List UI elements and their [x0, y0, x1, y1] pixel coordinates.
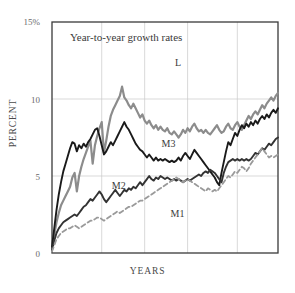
series-label-m1: M1	[171, 208, 185, 219]
series-label-l: L	[175, 57, 181, 68]
ytick-label-0: 0	[16, 249, 40, 259]
y-axis-label: PERCENT	[8, 88, 18, 158]
chart-title: Year-to-year growth rates	[70, 31, 182, 43]
series-line-m3	[52, 108, 278, 247]
series-label-m2: M2	[112, 180, 126, 191]
series-line-m1	[52, 148, 278, 251]
series-label-m3: M3	[162, 138, 176, 149]
growth-rates-chart-figure: 15% 10 5 0 PERCENT YEARS Year-to-year gr…	[0, 0, 295, 293]
ytick-label-10: 10	[16, 95, 40, 105]
x-axis-label: YEARS	[0, 266, 295, 276]
ytick-label-15: 15%	[16, 17, 40, 27]
ytick-label-5: 5	[16, 172, 40, 182]
chart-plot-area	[0, 0, 295, 293]
